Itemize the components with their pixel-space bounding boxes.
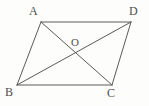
intersection-label-o: O <box>71 36 79 48</box>
parallelogram-diagonals <box>17 22 131 85</box>
segment-ac <box>41 22 112 85</box>
geometry-figure: A D B C O <box>0 0 149 106</box>
vertex-label-d: D <box>129 5 138 17</box>
parallelogram-diagram-svg <box>0 0 149 106</box>
segment-ba <box>17 22 41 85</box>
vertex-label-b: B <box>5 86 13 98</box>
vertex-label-a: A <box>29 5 38 17</box>
vertex-label-c: C <box>107 87 115 99</box>
segment-bd <box>17 22 131 85</box>
